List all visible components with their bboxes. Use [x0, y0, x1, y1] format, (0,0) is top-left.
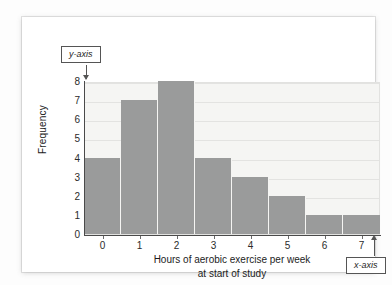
y-tick-label: 2: [58, 192, 80, 202]
x-axis-title: Hours of aerobic exercise per week at st…: [84, 253, 380, 280]
histogram-bar: [306, 215, 343, 234]
y-tick-label: 3: [58, 173, 80, 183]
histogram-bar: [269, 196, 306, 234]
x-axis-leader-line: [374, 239, 375, 256]
histogram-bar: [158, 81, 195, 234]
x-tickmark: [140, 236, 141, 239]
plot-area: [84, 82, 380, 235]
x-tick-label: 4: [236, 240, 266, 251]
y-tick-label: 4: [58, 154, 80, 164]
y-axis-line: [84, 81, 85, 236]
x-tickmark: [325, 236, 326, 239]
x-axis-title-line1: Hours of aerobic exercise per week: [154, 254, 311, 265]
x-tick-label: 0: [88, 240, 118, 251]
y-tick-label: 8: [58, 77, 80, 87]
histogram-bar: [343, 215, 380, 234]
x-tickmark: [288, 236, 289, 239]
x-axis-arrow-icon: [371, 235, 377, 240]
y-tick-label: 0: [58, 230, 80, 240]
x-axis-line: [84, 235, 381, 236]
x-tickmark: [214, 236, 215, 239]
histogram-figure-card: 876543210 01234567 Frequency Hours of ae…: [22, 17, 375, 272]
x-axis-title-line2: at start of study: [198, 268, 266, 279]
x-tickmark: [251, 236, 252, 239]
x-tick-label: 1: [125, 240, 155, 251]
y-tick-label: 6: [58, 115, 80, 125]
histogram-bar: [84, 158, 121, 235]
x-axis-callout-box: x-axis: [346, 257, 386, 274]
x-tick-label: 7: [347, 240, 377, 251]
y-tick-label: 1: [58, 211, 80, 221]
x-tickmark: [177, 236, 178, 239]
x-tickmark: [362, 236, 363, 239]
y-axis-callout-box: y-axis: [61, 46, 101, 63]
x-tick-label: 3: [199, 240, 229, 251]
x-tickmark: [103, 236, 104, 239]
x-tick-label: 2: [162, 240, 192, 251]
y-axis-tick-labels: 876543210: [56, 77, 80, 240]
gridline: [84, 83, 379, 84]
y-tick-label: 7: [58, 96, 80, 106]
x-tick-label: 6: [310, 240, 340, 251]
y-axis-title: Frequency: [37, 90, 48, 170]
histogram-bar: [195, 158, 232, 235]
x-tick-label: 5: [273, 240, 303, 251]
x-axis-tick-labels: 01234567: [84, 240, 380, 254]
y-tick-label: 5: [58, 134, 80, 144]
histogram-bar: [121, 100, 158, 234]
y-axis-arrow-icon: [83, 75, 89, 80]
histogram-bar: [232, 177, 269, 234]
